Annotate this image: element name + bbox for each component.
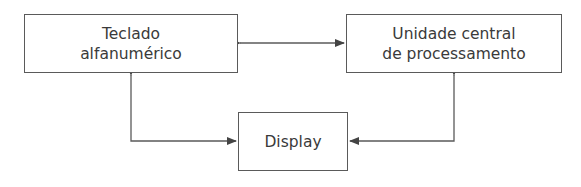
node-label-line: Display: [264, 132, 321, 152]
edge-teclado-display: [131, 75, 236, 141]
node-unidade-central-processamento: Unidade central de processamento: [346, 14, 562, 73]
node-label-line: Teclado: [102, 24, 160, 44]
node-label-line: de processamento: [382, 44, 525, 64]
edge-ucp-display: [350, 75, 454, 141]
node-label-line: Unidade central: [392, 24, 515, 44]
node-display: Display: [238, 112, 348, 171]
node-label-line: alfanumérico: [80, 44, 182, 64]
node-teclado-alfanumerico: Teclado alfanumérico: [24, 14, 238, 73]
